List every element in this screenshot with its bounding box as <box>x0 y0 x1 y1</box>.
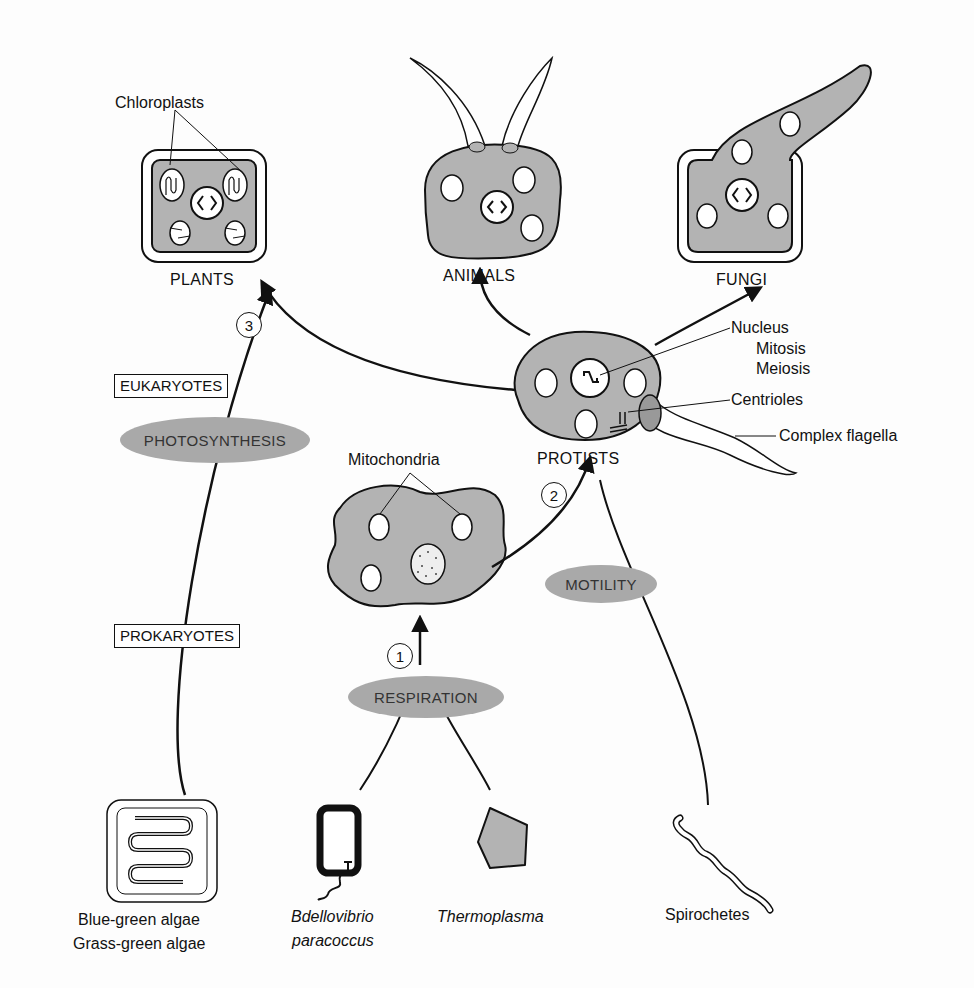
step-1-marker: 1 <box>387 643 413 669</box>
organism-label-algae-2: Grass-green algae <box>73 934 206 954</box>
complex-flagella-label: Complex flagella <box>779 426 897 446</box>
amoeboid-cell <box>328 473 506 606</box>
plant-cell <box>142 110 266 262</box>
diagram-canvas <box>0 0 974 988</box>
protists-label: PROTISTS <box>537 449 619 469</box>
fungi-label: FUNGI <box>716 270 767 290</box>
nucleus-label: Nucleus <box>731 318 789 338</box>
mitosis-label: Mitosis <box>756 339 806 359</box>
animal-cell <box>410 58 561 259</box>
motility-process: MOTILITY <box>545 565 657 603</box>
organism-label-spirochetes: Spirochetes <box>665 905 750 925</box>
blue-green-algae-cell <box>107 800 217 902</box>
plants-label: PLANTS <box>170 270 234 290</box>
organism-label-bdellovibrio-1: Bdellovibrio <box>291 907 374 927</box>
animals-label: ANIMALS <box>443 266 515 286</box>
centrioles-label: Centrioles <box>731 390 803 410</box>
step-2-marker: 2 <box>541 482 567 508</box>
meiosis-label: Meiosis <box>756 359 810 379</box>
organism-label-bdellovibrio-2: paracoccus <box>292 931 374 951</box>
step-3-marker: 3 <box>236 312 262 338</box>
respiration-process: RESPIRATION <box>348 676 504 718</box>
organism-label-thermoplasma: Thermoplasma <box>437 907 544 927</box>
chloroplasts-label: Chloroplasts <box>115 93 204 113</box>
fungi-cell <box>678 65 871 262</box>
mitochondria-label: Mitochondria <box>348 450 440 470</box>
photosynthesis-process: PHOTOSYNTHESIS <box>120 417 310 463</box>
thermoplasma-cell <box>478 808 527 868</box>
spirochete-cell <box>676 818 770 910</box>
bdellovibrio-cell <box>318 808 358 900</box>
eukaryotes-group-label: EUKARYOTES <box>114 374 228 398</box>
prokaryotes-group-label: PROKARYOTES <box>114 624 240 648</box>
organism-label-algae-1: Blue-green algae <box>78 910 200 930</box>
